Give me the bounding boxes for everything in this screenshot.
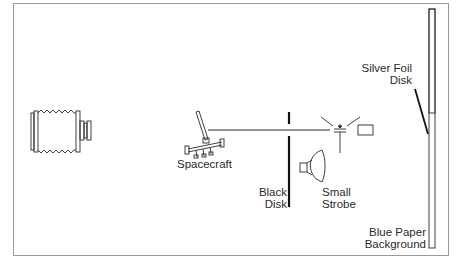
- silver-foil-label-line1: Silver Foil: [355, 62, 412, 74]
- blue-paper-background-label: Blue Paper Background: [355, 226, 426, 250]
- blue-paper-label-line1: Blue Paper: [355, 226, 426, 238]
- camera-bellows-icon: [31, 110, 91, 153]
- spotlight-icon: [321, 117, 373, 153]
- black-disk-label-line1: Black: [257, 186, 287, 198]
- silver-foil-disk-line: [415, 89, 428, 134]
- silver-foil-label-line2: Disk: [355, 74, 412, 86]
- blue-paper-background-panel: [429, 9, 435, 113]
- small-strobe-label-line2: Strobe: [322, 198, 356, 210]
- spacecraft-model-icon: [185, 111, 224, 158]
- black-disk-label: Black Disk: [257, 186, 287, 210]
- silver-foil-disk-label: Silver Foil Disk: [355, 62, 412, 86]
- small-strobe-label: Small Strobe: [322, 186, 356, 210]
- blue-paper-label-line2: Background: [355, 238, 426, 250]
- black-disk-label-line2: Disk: [257, 198, 287, 210]
- strobe-icon: [300, 150, 325, 182]
- blue-paper-background-panel-lower: [429, 9, 435, 248]
- spacecraft-label: Spacecraft: [177, 158, 232, 170]
- small-strobe-label-line1: Small: [322, 186, 356, 198]
